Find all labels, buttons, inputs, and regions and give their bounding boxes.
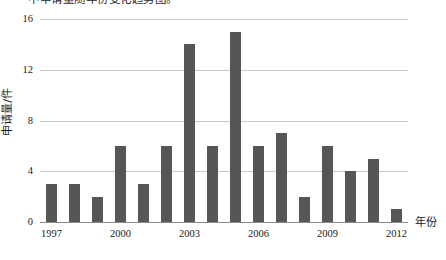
bar-1998	[69, 184, 80, 222]
bar-2007	[276, 133, 287, 222]
bar-series	[40, 19, 408, 222]
bar-chart-figure: 中申请量随年份变化趋势图。 申请量/件 0481216 199720002003…	[0, 0, 446, 260]
y-tick-label-8: 8	[28, 115, 33, 126]
bar-2001	[138, 184, 149, 222]
bar-2000	[115, 146, 126, 222]
x-tick-label-2006: 2006	[248, 228, 269, 241]
bar-2005	[230, 32, 241, 222]
x-tick-label-1997: 1997	[41, 228, 62, 241]
bar-2004	[207, 146, 218, 222]
y-tick-label-12: 12	[23, 65, 34, 76]
cut-off-caption: 中申请量随年份变化趋势图。	[0, 0, 446, 13]
bar-2011	[368, 159, 379, 222]
bar-1997	[46, 184, 57, 222]
y-tick-label-0: 0	[28, 217, 33, 228]
x-tick-label-2009: 2009	[317, 228, 338, 241]
bar-2008	[299, 197, 310, 222]
y-tick-label-16: 16	[23, 14, 34, 25]
bar-2003	[184, 44, 195, 222]
x-tick-label-2012: 2012	[386, 228, 407, 241]
bar-2012	[391, 209, 402, 222]
x-axis-title: 年份	[415, 213, 437, 229]
bar-2009	[322, 146, 333, 222]
x-axis-line	[40, 222, 408, 223]
y-axis-tick-labels: 0481216	[0, 0, 33, 260]
bar-2010	[345, 171, 356, 222]
bar-1999	[92, 197, 103, 222]
bar-2002	[161, 146, 172, 222]
x-tick-label-2003: 2003	[179, 228, 200, 241]
y-tick-label-4: 4	[28, 166, 33, 177]
x-axis-tick-labels: 199720002003200620092012	[40, 228, 420, 248]
caption-text: 中申请量随年份变化趋势图。	[28, 0, 178, 6]
x-tick-label-2000: 2000	[110, 228, 131, 241]
bar-2006	[253, 146, 264, 222]
